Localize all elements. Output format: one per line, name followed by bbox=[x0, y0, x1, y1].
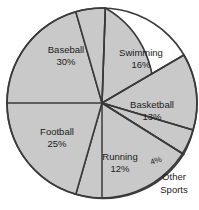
pie-label-baseball-name: Baseball bbox=[48, 44, 84, 55]
cropped-question-line-2: ort? bbox=[0, 186, 48, 202]
pie-label-swimming-name: Swimming bbox=[119, 47, 163, 58]
cropped-question-line-1: at bbox=[0, 170, 48, 186]
pie-label-running-name: Running bbox=[102, 151, 137, 162]
pie-label-other-sports-name-line2: Sports bbox=[160, 184, 188, 195]
cropped-question-text: at ort? bbox=[0, 170, 48, 202]
pie-chart-figure: Baseball 30% Swimming 16% Basketball 13%… bbox=[0, 0, 199, 210]
pie-label-other-sports-name-line1: Other bbox=[162, 171, 186, 182]
pie-label-basketball-value: 13% bbox=[142, 111, 162, 122]
pie-label-basketball-name: Basketball bbox=[130, 99, 174, 110]
pie-label-football-name: Football bbox=[40, 126, 74, 137]
pie-label-swimming-value: 16% bbox=[131, 59, 151, 70]
pie-label-football-value: 25% bbox=[47, 138, 67, 149]
pie-label-baseball-value: 30% bbox=[56, 56, 76, 67]
pie-label-running-value: 12% bbox=[110, 163, 130, 174]
